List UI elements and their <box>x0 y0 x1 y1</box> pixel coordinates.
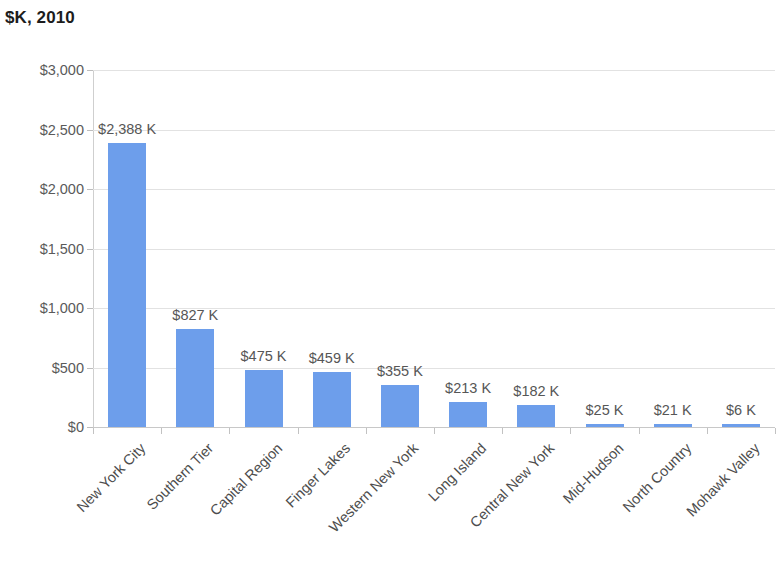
gridline <box>93 130 775 131</box>
bar <box>449 402 487 427</box>
y-axis-tick-label: $2,500 <box>8 122 84 138</box>
x-axis-tick <box>229 428 230 434</box>
y-axis-tick-label: $3,000 <box>8 62 84 78</box>
bar-value-label: $459 K <box>309 350 355 366</box>
x-axis-category-label: North Country <box>619 440 694 515</box>
bar-value-label: $827 K <box>172 307 218 323</box>
x-axis-tick <box>161 428 162 434</box>
bar <box>517 405 555 427</box>
x-axis-category-label: Mid-Hudson <box>559 440 626 507</box>
bar-value-label: $475 K <box>241 348 287 364</box>
x-axis-tick <box>366 428 367 434</box>
x-axis-tick <box>298 428 299 434</box>
bar <box>654 424 692 427</box>
bar <box>313 372 351 427</box>
y-axis-tick-label: $1,000 <box>8 300 84 316</box>
x-axis-category-label: Capital Region <box>206 440 285 519</box>
plot-area <box>93 70 775 427</box>
x-axis-category-label: Finger Lakes <box>282 440 353 511</box>
gridline <box>93 70 775 71</box>
x-axis-tick <box>93 428 94 434</box>
bar-value-label: $213 K <box>445 380 491 396</box>
gridline <box>93 249 775 250</box>
y-axis-tick-label: $2,000 <box>8 181 84 197</box>
gridline <box>93 189 775 190</box>
x-axis-tick <box>775 428 776 434</box>
bar <box>245 370 283 427</box>
bar <box>176 329 214 427</box>
x-axis-tick <box>639 428 640 434</box>
x-axis-category-label: Mohawk Valley <box>683 440 763 520</box>
x-axis-tick <box>570 428 571 434</box>
bar-value-label: $182 K <box>513 383 559 399</box>
bar-value-label: $6 K <box>726 402 756 418</box>
bar <box>381 385 419 427</box>
x-axis-category-label: Southern Tier <box>144 440 217 513</box>
x-axis-tick <box>707 428 708 434</box>
bar-value-label: $355 K <box>377 363 423 379</box>
x-axis-tick <box>434 428 435 434</box>
y-axis-tick-label: $0 <box>8 419 84 435</box>
bar-chart: $K, 2010 $3,000$2,500$2,000$1,500$1,000$… <box>0 0 783 565</box>
x-axis-category-label: New York City <box>74 440 149 515</box>
x-axis-tick <box>502 428 503 434</box>
chart-title: $K, 2010 <box>5 8 75 28</box>
bar-value-label: $21 K <box>654 402 692 418</box>
y-axis-tick-label: $1,500 <box>8 241 84 257</box>
bar-value-label: $25 K <box>586 402 624 418</box>
y-axis-tick-label: $500 <box>8 360 84 376</box>
bar <box>108 143 146 427</box>
bar-value-label: $2,388 K <box>98 121 156 137</box>
bar <box>586 424 624 427</box>
bar <box>722 424 760 427</box>
x-axis-category-label: Long Island <box>425 440 489 504</box>
